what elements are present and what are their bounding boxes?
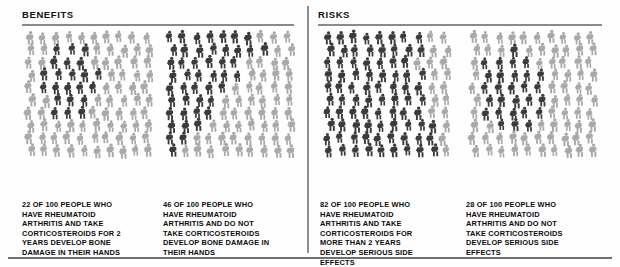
person-icon-highlighted [230,56,237,68]
person-icon [509,130,517,144]
person-icon-highlighted [55,68,62,80]
person-icon [534,131,541,144]
caption-line: 28 OF 100 PEOPLE WHO [466,200,606,210]
person-icon-highlighted [222,44,229,56]
person-icon [76,133,83,145]
person-icon [130,55,138,68]
person-icon [564,119,571,131]
person-icon-highlighted [511,70,518,82]
person-icon-highlighted [486,94,493,106]
person-icon [575,144,583,157]
person-icon [193,132,200,145]
person-icon-highlighted [193,106,200,118]
person-icon-highlighted [365,143,373,156]
person-icon-highlighted [400,132,407,145]
person-icon-highlighted [182,93,189,106]
person-icon [274,145,282,158]
person-icon [51,32,59,45]
person-icon [42,95,50,108]
person-icon [281,57,289,71]
person-icon [271,107,278,119]
person-icon [274,45,281,57]
person-icon-highlighted [521,81,528,93]
person-icon-highlighted [327,118,335,131]
person-icon [508,31,516,45]
caption-line: MORE THAN 2 YEARS [320,238,460,248]
person-icon-highlighted [196,44,204,57]
person-icon-highlighted [362,131,370,144]
person-icon-highlighted [387,130,394,143]
person-icon-highlighted [495,107,502,119]
person-icon-highlighted [218,81,225,93]
person-icon [484,44,491,56]
person-icon [209,119,216,131]
section-divider [307,6,309,253]
person-icon-highlighted [350,57,356,68]
person-icon-highlighted [405,44,412,57]
person-icon [413,57,420,70]
person-icon [564,69,571,81]
person-icon [533,32,540,44]
person-icon [288,43,295,56]
person-icon [93,118,101,131]
person-icon [128,31,135,43]
infographic-root: BENEFITS RISKS 22 OF 100 PEOPLE WHOHAVE … [0,0,620,267]
person-icon [524,143,531,155]
person-icon-highlighted [177,30,185,43]
person-icon-highlighted [415,32,422,43]
person-icon-highlighted [326,93,333,106]
person-icon [101,57,108,70]
section-title-benefits: BENEFITS [22,9,74,20]
person-icon [547,131,554,144]
person-icon [248,94,255,106]
person-icon [574,32,581,44]
person-icon-highlighted [324,68,332,81]
caption-line: 46 OF 100 PEOPLE WHO [163,200,303,210]
caption-line: DEVELOP BONE DAMAGE IN [163,238,303,248]
person-icon [551,44,559,57]
person-icon-highlighted [219,56,226,68]
person-icon-highlighted [335,81,342,94]
person-icon-highlighted [234,45,241,58]
person-icon-highlighted [404,93,411,106]
person-icon [27,43,34,55]
person-icon-highlighted [363,33,370,45]
person-icon [206,145,213,158]
person-icon [52,144,59,157]
person-icon [444,68,451,80]
person-icon-highlighted [40,82,47,93]
person-icon [561,108,568,120]
person-icon [498,45,505,57]
person-icon [37,106,44,119]
person-icon [24,56,31,68]
person-icon-highlighted [389,55,396,68]
person-icon-highlighted [66,94,73,107]
person-icon [428,83,435,94]
caption-line: ARTHRITIS AND TAKE [320,219,460,229]
person-icon-highlighted [352,94,359,106]
person-icon [526,45,533,57]
person-icon [429,45,436,58]
person-icon [585,56,592,67]
caption-line: YEARS DEVELOP BONE [22,238,162,248]
person-icon [561,133,569,147]
person-icon [426,57,433,69]
person-icon [577,68,584,80]
person-icon [140,106,147,119]
person-icon [428,105,435,118]
person-icon [218,132,226,146]
person-icon [106,95,113,108]
person-icon-highlighted [390,144,398,158]
person-icon-highlighted [403,69,410,82]
person-icon [472,145,479,157]
caption-line: 22 OF 100 PEOPLE WHO [22,200,162,210]
person-icon [107,68,114,81]
person-icon [144,143,152,156]
caption-line: ARTHRITIS AND DO NOT [163,219,303,229]
person-icon [130,108,137,120]
person-icon [538,143,546,157]
person-icon-highlighted [390,44,397,56]
person-icon-highlighted [180,44,188,58]
person-icon-highlighted [54,93,61,105]
person-icon-highlighted [204,106,212,119]
